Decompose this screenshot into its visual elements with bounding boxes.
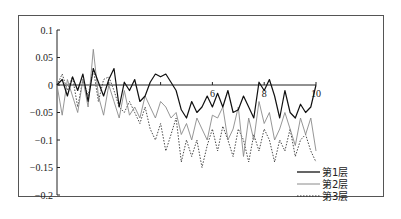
y-tick-label: 0.05	[36, 52, 54, 63]
legend-label: 第1层	[322, 166, 348, 178]
y-tick-label: −0.05	[30, 107, 53, 118]
y-tick-label: −0.2	[35, 190, 53, 201]
y-tick-label: 0	[48, 80, 53, 91]
y-tick-label: 0.1	[41, 25, 54, 36]
y-tick-label: −0.15	[30, 162, 53, 173]
legend-label: 第2层	[322, 178, 348, 190]
legend: 第1层第2层第3层	[297, 166, 348, 202]
x-axis: 6810	[57, 82, 321, 99]
line-chart: 0.10.050−0.05−0.1−0.15−0.2 6810 第1层第2层第3…	[0, 0, 401, 219]
series-lines	[57, 49, 316, 167]
series-line-1	[57, 69, 316, 119]
x-tick-label: 6	[210, 88, 215, 99]
legend-label: 第3层	[322, 190, 348, 202]
y-tick-label: −0.1	[35, 135, 53, 146]
y-axis: 0.10.050−0.05−0.1−0.15−0.2	[30, 25, 60, 201]
